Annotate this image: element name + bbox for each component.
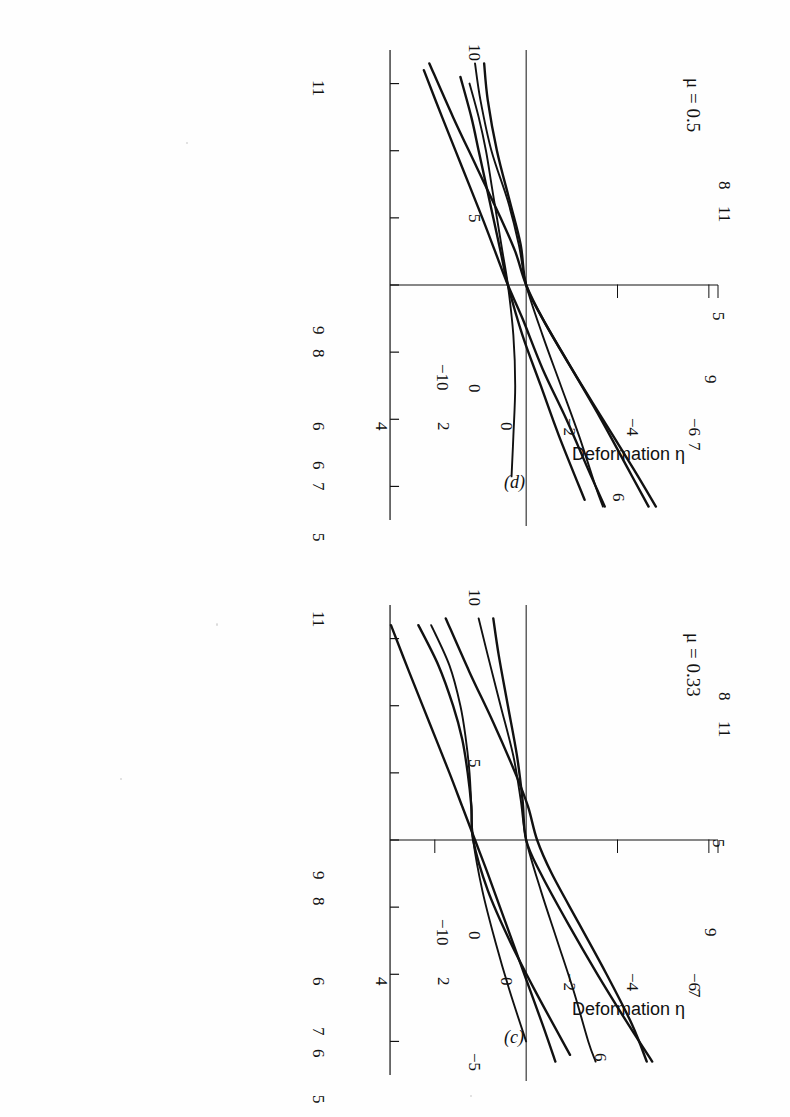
scan-speck <box>216 623 218 626</box>
panel-d-xtick-4: 4 <box>371 422 391 431</box>
panel-d-xaxis-title: Deformation η <box>572 444 685 465</box>
panel-d-ytick-5: 5 <box>464 214 484 223</box>
panel-d-curve-label-6-bot: 6 <box>308 461 328 470</box>
energy-curve-5 <box>424 70 605 506</box>
panel-d-xtick-minus6: −6 <box>684 418 704 436</box>
panel-c-ytick-5: 5 <box>464 759 484 768</box>
panel-c-curve-label-8-bot: 8 <box>308 897 328 906</box>
panel-c-xtick-minus2: −2 <box>559 973 579 991</box>
panel-c-curve-label-9-top: 9 <box>700 928 720 937</box>
panel-d-tag: (d) <box>504 472 525 493</box>
panel-d-xtick-6: 6 <box>308 422 328 431</box>
scan-speck <box>186 142 188 144</box>
panel-d-ytick-10: 10 <box>464 44 484 61</box>
panel-c-curve-label-5-top: 5 <box>708 839 728 848</box>
panel-d-curve-label-7-bot: 7 <box>308 482 328 491</box>
panel-c-xtick-6: 6 <box>308 977 328 986</box>
panel-d-xtick-2: 2 <box>433 422 453 431</box>
panel-c-xtick-0: 0 <box>496 977 516 986</box>
figure-page: μ = 0.5 10 5 0 −10 −6 −4 −2 0 2 4 6 Defo… <box>0 0 790 1117</box>
panel-c-curve-label-11-top: 11 <box>714 721 734 737</box>
panel-d-ytick-0: 0 <box>464 384 484 393</box>
panel-c-ytick-minus5: −5 <box>464 1053 484 1071</box>
panel-d-curve-label-11-top: 11 <box>714 206 734 222</box>
scan-speck <box>120 778 122 780</box>
panel-d: μ = 0.5 10 5 0 −10 −6 −4 −2 0 2 4 6 Defo… <box>360 20 740 560</box>
panel-c-tag: (c) <box>504 1027 524 1048</box>
panel-d-xtick-0: 0 <box>496 422 516 431</box>
panel-c-curve-label-7-bot: 7 <box>308 1027 328 1036</box>
panel-c-xaxis-title: Deformation η <box>572 999 685 1020</box>
panel-c-curve-label-7-top: 7 <box>684 989 704 998</box>
panel-d-curve-label-5-bot: 5 <box>308 533 328 542</box>
scan-speck <box>470 1095 472 1097</box>
panel-d-curve-label-7-top: 7 <box>684 442 704 451</box>
panel-c: μ = 0.33 10 5 0 −5 −10 −6 −4 −2 0 2 4 6 … <box>360 575 740 1115</box>
panel-d-mu-label: μ = 0.5 <box>682 78 704 132</box>
panel-c-xtick-minus4: −4 <box>622 973 642 991</box>
energy-curve-7 <box>460 77 584 500</box>
panel-d-curve-label-6-top: 6 <box>608 493 628 502</box>
panel-d-xtick-minus2: −2 <box>559 418 579 436</box>
panel-c-curve-label-8-top: 8 <box>714 692 734 701</box>
panel-c-ytick-10: 10 <box>464 589 484 606</box>
panel-d-ytick-minus10: −10 <box>432 364 452 391</box>
panel-d-xtick-minus4: −4 <box>622 418 642 436</box>
panel-d-curve-label-11-bot: 11 <box>308 80 328 96</box>
panel-d-curve-label-5-top: 5 <box>708 312 728 321</box>
panel-c-curve-label-6-bot: 6 <box>308 1049 328 1058</box>
panel-c-curve-label-9-bot: 9 <box>308 871 328 880</box>
panel-c-curve-label-11-bot: 11 <box>308 611 328 627</box>
panel-c-ytick-0: 0 <box>464 931 484 940</box>
panel-d-curve-label-8-top: 8 <box>714 181 734 190</box>
panel-c-xtick-2: 2 <box>433 977 453 986</box>
panel-c-ytick-minus10: −10 <box>432 919 452 946</box>
panel-d-curve-label-9-bot: 9 <box>308 326 328 335</box>
panel-c-curve-label-5-bot: 5 <box>308 1095 328 1104</box>
panel-c-xtick-4: 4 <box>371 977 391 986</box>
panel-c-mu-label: μ = 0.33 <box>682 633 704 697</box>
panel-d-curve-label-8-bot: 8 <box>308 349 328 358</box>
panel-c-curve-label-6-top: 6 <box>590 1053 610 1062</box>
panel-d-curve-label-9-top: 9 <box>700 375 720 384</box>
